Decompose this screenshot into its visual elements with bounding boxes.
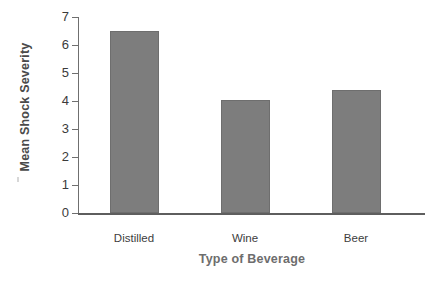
y-tick-label: 0	[62, 204, 69, 222]
y-tick-mark	[72, 213, 78, 214]
y-tick-label: 2	[62, 148, 69, 166]
y-tick-mark	[72, 185, 78, 186]
y-axis-title: Mean Shock Severity	[14, 0, 36, 214]
y-tick-label: 4	[62, 92, 69, 110]
y-tick-label: 7	[62, 8, 69, 26]
x-axis-line	[78, 213, 425, 215]
y-tick-label: 1	[62, 176, 69, 194]
x-label-wine: Wine	[195, 230, 295, 246]
y-tick-mark	[72, 129, 78, 130]
y-tick-label: 6	[62, 36, 69, 54]
bar-distilled	[110, 31, 159, 213]
bar-beer	[332, 90, 381, 213]
y-tick-mark	[72, 101, 78, 102]
bar-wine	[221, 100, 270, 213]
y-tick-label: 5	[62, 64, 69, 82]
y-tick-label: 3	[62, 120, 69, 138]
y-tick-mark	[72, 45, 78, 46]
chart-figure: Mean Shock Severity 01234567 DistilledWi…	[0, 0, 444, 286]
y-tick-mark	[72, 73, 78, 74]
x-axis-title: Type of Beverage	[78, 252, 426, 266]
y-tick-mark	[72, 157, 78, 158]
y-tick-mark	[72, 17, 78, 18]
x-label-beer: Beer	[306, 230, 406, 246]
x-label-distilled: Distilled	[84, 230, 184, 246]
plot-area: 01234567 DistilledWineBeer	[78, 17, 425, 213]
y-axis-line	[78, 17, 79, 213]
